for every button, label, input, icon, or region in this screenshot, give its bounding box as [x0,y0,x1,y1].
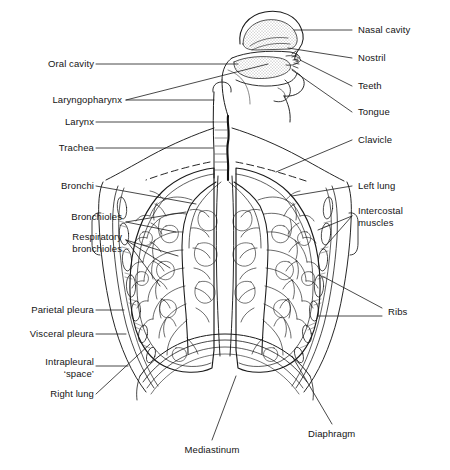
leader-intercostal-a [318,216,352,230]
label-laryngopharynx: Laryngopharynx [0,94,122,106]
leader-bronchioles-a [126,222,176,232]
label-trachea: Trachea [20,142,94,154]
leader-bronchi [96,186,196,204]
diaphragm [137,334,314,400]
label-intrapleural-space: Intrapleural ‘space’ [22,356,94,379]
label-intercostal-muscles: Intercostal muscles [358,205,444,228]
leader-bronchioles-b [126,212,186,222]
mediastinum [216,176,233,356]
label-clavicle: Clavicle [358,134,448,146]
label-oral-cavity: Oral cavity [10,58,94,70]
pleural-brackets [92,213,358,255]
label-nasal-cavity: Nasal cavity [358,24,448,36]
leader-clavicle [276,140,352,172]
label-bronchi: Bronchi [20,180,94,192]
label-nostril: Nostril [358,52,448,64]
label-mediastinum: Mediastinum [162,444,262,456]
trachea [213,82,231,180]
label-teeth: Teeth [358,80,448,92]
leader-mediastinum [212,376,236,440]
label-bronchioles: Bronchioles [14,211,122,223]
leader-nostril [288,48,352,58]
label-visceral-pleura: Visceral pleura [10,328,94,340]
label-right-lung: Right lung [22,388,94,400]
label-larynx: Larynx [20,116,94,128]
label-respiratory-bronchioles: Respiratory bronchioles [14,231,122,254]
label-left-lung: Left lung [358,180,448,192]
label-diaphragm: Diaphragm [308,428,394,440]
leader-teeth [300,60,352,86]
label-tongue: Tongue [358,106,448,118]
respiratory-system-diagram: Oral cavity Laryngopharynx Larynx Trache… [0,0,450,470]
leader-diaphragm [292,356,332,424]
leader-laryngopharynx-a [126,64,268,100]
head-section [222,11,304,122]
shoulder-girdle [106,128,344,181]
leader-left-lung [292,186,352,196]
label-ribs: Ribs [388,306,448,318]
label-parietal-pleura: Parietal pleura [10,304,94,316]
